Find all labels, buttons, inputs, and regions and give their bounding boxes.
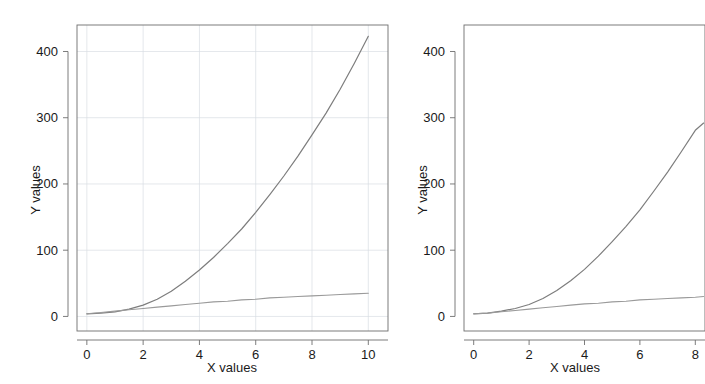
y-tick-label-100: 100	[423, 243, 445, 258]
series-line-quadratic	[87, 36, 368, 314]
y-tick-label-400: 400	[36, 44, 58, 59]
y-tick-label-100: 100	[36, 243, 58, 258]
x-tick-label-4: 4	[196, 347, 203, 362]
y-axis-title: Y values	[28, 165, 43, 215]
series-group	[474, 123, 704, 314]
x-tick-label-2: 2	[140, 347, 147, 362]
y-tick-label-0: 0	[51, 309, 58, 324]
series-line-quadratic	[474, 123, 704, 314]
x-tick-label-2: 2	[525, 347, 532, 362]
x-tick-label-6: 6	[636, 347, 643, 362]
x-axis-group: 02468	[464, 340, 705, 362]
y-tick-label-300: 300	[36, 110, 58, 125]
chart-left-svg: 02468100100200300400X valuesY values	[0, 0, 400, 384]
plot-frame	[77, 25, 388, 331]
x-axis-group: 0246810	[77, 340, 388, 362]
figure-canvas: 02468100100200300400X valuesY values 024…	[0, 0, 705, 384]
series-group	[87, 36, 368, 314]
x-tick-label-8: 8	[692, 347, 699, 362]
y-tick-label-400: 400	[423, 44, 445, 59]
chart-right-svg: 024680100200300400X valuesY values	[400, 0, 705, 384]
chart-panel-left: 02468100100200300400X valuesY values	[0, 0, 400, 384]
y-tick-label-0: 0	[438, 309, 445, 324]
y-axis-title: Y values	[415, 165, 430, 215]
x-tick-label-10: 10	[361, 347, 375, 362]
x-tick-label-8: 8	[308, 347, 315, 362]
chart-panel-right: 024680100200300400X valuesY values	[400, 0, 705, 384]
series-line-linear	[474, 297, 704, 314]
y-tick-label-300: 300	[423, 110, 445, 125]
x-axis-title: X values	[550, 360, 600, 375]
x-tick-label-0: 0	[83, 347, 90, 362]
series-line-linear	[87, 293, 368, 314]
plot-frame	[464, 25, 705, 331]
gridlines-group	[77, 25, 388, 331]
x-tick-label-0: 0	[470, 347, 477, 362]
x-axis-title: X values	[207, 360, 257, 375]
